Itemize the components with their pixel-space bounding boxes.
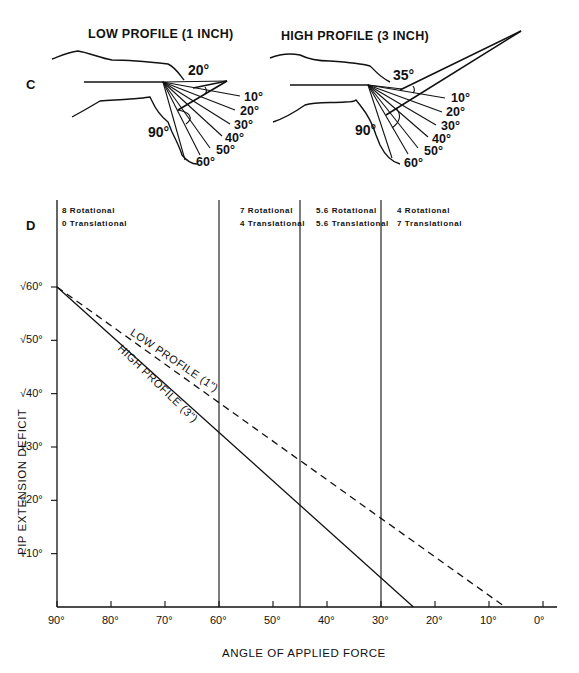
x-tick-label: 90° bbox=[48, 614, 65, 626]
chart-plot bbox=[0, 0, 579, 673]
x-tick-label: 20° bbox=[426, 614, 443, 626]
y-axis-title: PIP EXTENSION DEFICIT bbox=[16, 409, 28, 555]
y-tick-label: √60° bbox=[20, 280, 43, 292]
y-tick-label: √50° bbox=[20, 333, 43, 345]
x-tick-label: 60° bbox=[210, 614, 227, 626]
x-tick-label: 80° bbox=[102, 614, 119, 626]
x-tick-label: 0° bbox=[534, 614, 545, 626]
high-profile-line bbox=[57, 287, 413, 607]
x-axis-title: ANGLE OF APPLIED FORCE bbox=[222, 647, 386, 659]
low-profile-line bbox=[57, 287, 505, 607]
x-tick-label: 70° bbox=[156, 614, 173, 626]
x-tick-label: 40° bbox=[318, 614, 335, 626]
x-tick-label: 10° bbox=[480, 614, 497, 626]
y-tick-label: √40° bbox=[20, 387, 43, 399]
x-tick-label: 50° bbox=[264, 614, 281, 626]
x-tick-label: 30° bbox=[372, 614, 389, 626]
